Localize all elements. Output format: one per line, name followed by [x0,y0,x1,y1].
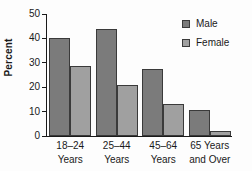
category-label-line1: 65 Years [190,140,229,151]
legend-swatch-male-icon [182,20,190,28]
category-label-line1: 25–44 [103,140,131,151]
legend-swatch-female-icon [182,39,190,47]
bar-group [140,14,187,136]
bar-male [49,38,70,136]
bar-female [117,85,138,136]
bar-female [210,131,231,136]
x-axis-category-labels: 18–24Years25–44Years45–64Years65 Yearsan… [47,139,233,171]
bar-male [189,110,210,136]
bar-female [163,104,184,136]
y-axis-tick-mark [42,87,46,88]
y-axis-tick-label: 30 [29,56,40,69]
bar-male [96,29,117,136]
category-label-line1: 18–24 [56,140,84,151]
chart-legend: MaleFemale [182,16,229,54]
y-axis-tick-mark [42,14,46,15]
y-axis-tick-label: 40 [29,31,40,44]
legend-label: Male [196,16,218,32]
y-axis-tick-label: 10 [29,105,40,118]
x-axis-category-label: 25–44Years [94,139,141,167]
category-label-line1: 45–64 [149,140,177,151]
legend-item-female: Female [182,35,229,51]
legend-item-male: Male [182,16,229,32]
category-label-line2: and Over [187,153,234,167]
y-axis-tick-mark [42,136,46,137]
category-label-line2: Years [94,153,141,167]
bar-chart: Percent 01020304050 18–24Years25–44Years… [0,0,252,171]
y-axis-tick-label: 20 [29,80,40,93]
y-axis-tick-label: 0 [34,129,40,142]
bar-group [47,14,94,136]
category-label-line2: Years [47,153,94,167]
bar-female [70,66,91,136]
x-axis-category-label: 65 Yearsand Over [187,139,234,167]
y-axis-title: Percent [3,28,14,88]
x-axis-category-label: 18–24Years [47,139,94,167]
legend-label: Female [196,35,229,51]
y-axis-tick-mark [42,111,46,112]
category-label-line2: Years [140,153,187,167]
y-axis-tick-mark [42,38,46,39]
x-axis-line [46,136,232,137]
bar-male [142,69,163,136]
y-axis-tick-label: 50 [29,7,40,20]
bar-group [94,14,141,136]
x-axis-category-label: 45–64Years [140,139,187,167]
y-axis-tick-mark [42,62,46,63]
